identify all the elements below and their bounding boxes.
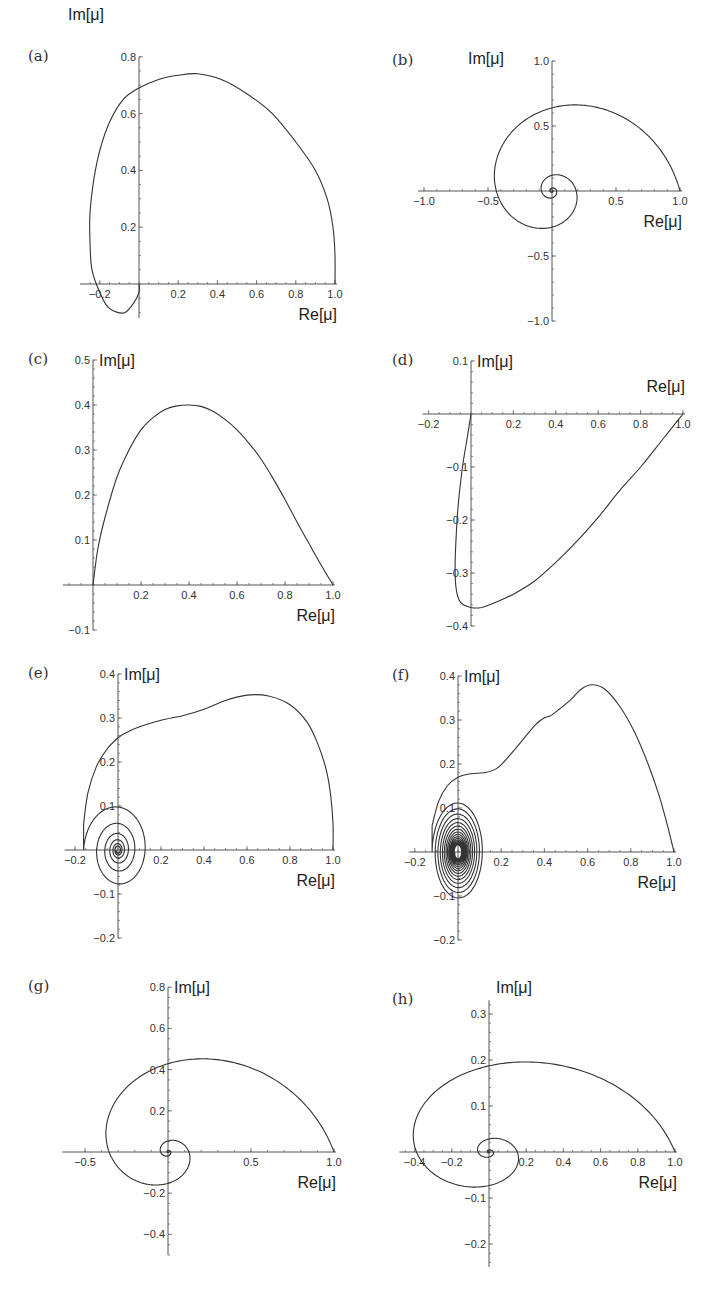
x-tick-label: 0.2 xyxy=(519,1156,534,1168)
x-tick-label: 0.2 xyxy=(506,418,521,430)
y-tick-label: 0.4 xyxy=(100,668,115,680)
x-tick-label: 0.4 xyxy=(210,288,225,300)
y-axis-title: Im[μ] xyxy=(174,979,210,996)
panel-c: (c)0.20.40.60.81.0−0.10.10.20.30.40.5Im[… xyxy=(28,350,341,636)
inner-spiral-curve xyxy=(432,803,482,898)
panel-label: (b) xyxy=(392,51,413,69)
x-tick-label: 0.5 xyxy=(243,1156,258,1168)
x-tick-label: 0.4 xyxy=(196,854,211,866)
y-tick-label: −1.0 xyxy=(527,315,549,327)
y-tick-label: 0.1 xyxy=(75,534,90,546)
x-tick-label: −0.2 xyxy=(418,418,440,430)
panel-label: (c) xyxy=(28,350,48,368)
x-tick-label: 0.6 xyxy=(580,856,595,868)
figure-canvas: (a)−0.20.20.40.60.81.00.20.40.60.8Im[μ]R… xyxy=(0,0,726,1294)
y-tick-label: 0.2 xyxy=(440,758,455,770)
y-tick-label: 0.3 xyxy=(75,444,90,456)
x-tick-label: 1.0 xyxy=(325,854,340,866)
y-tick-label: 0.4 xyxy=(121,164,136,176)
y-tick-label: −0.2 xyxy=(93,932,115,944)
x-axis-title: Re[μ] xyxy=(638,1174,677,1191)
x-tick-label: 1.0 xyxy=(667,1156,682,1168)
y-axis-title: Im[μ] xyxy=(477,353,513,370)
x-tick-label: 0.2 xyxy=(133,589,148,601)
y-tick-label: 0.8 xyxy=(121,51,136,63)
panel-a: (a)−0.20.20.40.60.81.00.20.40.60.8Im[μ]R… xyxy=(28,6,343,323)
x-tick-label: 0.6 xyxy=(239,854,254,866)
y-tick-label: 0.5 xyxy=(534,120,549,132)
x-axis-title: Re[μ] xyxy=(296,872,335,889)
x-tick-label: 0.6 xyxy=(593,1156,608,1168)
x-tick-label: 0.8 xyxy=(630,1156,645,1168)
y-tick-label: 0.3 xyxy=(471,1008,486,1020)
x-tick-label: 0.2 xyxy=(494,856,509,868)
x-tick-label: 0.4 xyxy=(181,589,196,601)
trajectory-curve xyxy=(455,414,683,608)
x-tick-label: 1.0 xyxy=(326,1156,341,1168)
spiral-curve xyxy=(106,1059,334,1185)
y-axis-title: Im[μ] xyxy=(99,352,135,369)
x-tick-label: −0.5 xyxy=(74,1156,96,1168)
x-tick-label: 0.2 xyxy=(171,288,186,300)
x-tick-label: 0.8 xyxy=(633,418,648,430)
y-tick-label: −0.4 xyxy=(446,620,468,632)
x-tick-label: 0.4 xyxy=(548,418,563,430)
x-tick-label: 1.0 xyxy=(672,195,687,207)
trajectory-curve xyxy=(93,405,333,585)
x-tick-label: −0.5 xyxy=(477,195,499,207)
x-tick-label: 0.6 xyxy=(591,418,606,430)
x-tick-label: 1.0 xyxy=(666,856,681,868)
y-tick-label: 0.6 xyxy=(121,108,136,120)
y-tick-label: −0.1 xyxy=(68,624,90,636)
y-tick-label: −0.2 xyxy=(464,1238,486,1250)
y-tick-label: −0.1 xyxy=(93,888,115,900)
x-tick-label: 0.4 xyxy=(556,1156,571,1168)
x-axis-title: Re[μ] xyxy=(297,1174,336,1191)
y-tick-label: 0.1 xyxy=(100,800,115,812)
panel-h: (h)−0.4−0.20.20.40.60.81.0−0.2−0.10.10.2… xyxy=(392,979,683,1267)
y-tick-label: −0.2 xyxy=(433,934,455,946)
x-tick-label: 0.5 xyxy=(608,195,623,207)
y-tick-label: −0.1 xyxy=(446,461,468,473)
y-tick-label: 0.1 xyxy=(453,355,468,367)
x-axis-title: Re[μ] xyxy=(637,874,676,891)
panel-g: (g)−0.50.51.0−0.4−0.20.20.40.60.8Im[μ]Re… xyxy=(28,977,342,1255)
y-axis-title: Im[μ] xyxy=(124,666,160,683)
y-tick-label: −0.3 xyxy=(446,567,468,579)
inner-spiral-curve xyxy=(84,807,146,884)
y-tick-label: 0.2 xyxy=(100,756,115,768)
y-tick-label: −0.2 xyxy=(143,1187,165,1199)
y-tick-label: 0.6 xyxy=(150,1022,165,1034)
x-tick-label: 0.8 xyxy=(623,856,638,868)
panel-b: (b)−1.0−0.50.51.0−1.0−0.50.51.0Im[μ]Re[μ… xyxy=(392,50,688,327)
x-tick-label: 1.0 xyxy=(325,589,340,601)
panel-d: (d)−0.20.20.40.60.81.0−0.4−0.3−0.2−0.10.… xyxy=(392,351,691,632)
y-tick-label: 0.3 xyxy=(100,712,115,724)
y-tick-label: −0.1 xyxy=(464,1192,486,1204)
panel-label: (a) xyxy=(28,47,49,65)
y-tick-label: −0.4 xyxy=(143,1228,165,1240)
x-tick-label: −0.2 xyxy=(89,288,111,300)
y-axis-title: Im[μ] xyxy=(68,6,104,23)
x-tick-label: 0.2 xyxy=(153,854,168,866)
panel-label: (d) xyxy=(392,351,413,369)
panel-label: (g) xyxy=(28,977,49,995)
x-axis-title: Re[μ] xyxy=(646,378,685,395)
panel-f: (f)−0.20.20.40.60.81.0−0.2−0.10.10.20.30… xyxy=(392,666,682,946)
y-axis-title: Im[μ] xyxy=(468,50,504,67)
x-tick-label: 0.8 xyxy=(282,854,297,866)
panel-label: (f) xyxy=(392,666,409,684)
y-tick-label: 0.8 xyxy=(150,981,165,993)
x-tick-label: 0.8 xyxy=(277,589,292,601)
y-tick-label: 0.4 xyxy=(440,670,455,682)
panel-e: (e)−0.20.20.40.60.81.0−0.2−0.10.10.20.30… xyxy=(28,664,341,944)
panel-label: (h) xyxy=(392,990,413,1008)
x-tick-label: −0.2 xyxy=(404,856,426,868)
x-tick-label: 1.0 xyxy=(327,288,342,300)
y-tick-label: 0.1 xyxy=(471,1100,486,1112)
y-tick-label: 0.3 xyxy=(440,714,455,726)
y-tick-label: 1.0 xyxy=(534,55,549,67)
y-axis-title: Im[μ] xyxy=(464,668,500,685)
y-tick-label: 0.2 xyxy=(150,1105,165,1117)
panel-label: (e) xyxy=(28,664,49,682)
